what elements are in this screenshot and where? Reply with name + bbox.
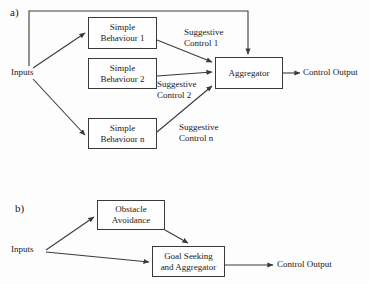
label-control-output-a: Control Output — [303, 67, 358, 78]
node-simple-behaviour-n-line2: Behaviour n — [100, 134, 144, 145]
node-obstacle-avoidance[interactable]: Obstacle Avoidance — [97, 200, 165, 230]
label-control-output-b: Control Output — [277, 259, 332, 270]
node-simple-behaviour-2[interactable]: Simple Behaviour 2 — [88, 58, 157, 89]
label-suggestive-control-n-line2: Control n — [179, 133, 213, 144]
label-suggestive-control-1-line2: Control 1 — [184, 38, 218, 49]
node-simple-behaviour-2-line1: Simple — [110, 63, 136, 74]
node-goal-seeking-line1: Goal Seeking — [164, 251, 213, 262]
node-simple-behaviour-1[interactable]: Simple Behaviour 1 — [88, 17, 157, 49]
label-inputs-a: Inputs — [11, 67, 34, 78]
edge-inputs-to-behaviourn — [33, 79, 85, 135]
node-obstacle-avoidance-line1: Obstacle — [115, 204, 147, 215]
node-simple-behaviour-n[interactable]: Simple Behaviour n — [88, 118, 157, 149]
node-goal-seeking-line2: and Aggregator — [161, 262, 217, 273]
label-inputs-b: Inputs — [11, 244, 34, 255]
label-suggestive-control-1-line1: Suggestive — [184, 27, 224, 38]
node-obstacle-avoidance-line2: Avoidance — [112, 215, 150, 226]
panel-label-b: b) — [15, 202, 24, 214]
panel-label-a: a) — [10, 6, 19, 18]
label-suggestive-control-2-line2: Control 2 — [157, 90, 191, 101]
node-goal-seeking-and-aggregator[interactable]: Goal Seeking and Aggregator — [152, 246, 225, 277]
label-suggestive-control-n-line1: Suggestive — [179, 122, 219, 133]
edge-obstacle-avoidance-to-goal-seeking — [165, 230, 188, 243]
label-suggestive-control-2-line1: Suggestive — [157, 79, 197, 90]
edge-inputs-to-goal-seeking — [46, 252, 149, 262]
node-simple-behaviour-1-line1: Simple — [110, 22, 136, 33]
node-simple-behaviour-2-line2: Behaviour 2 — [100, 74, 144, 85]
edge-inputs-to-behaviour1 — [33, 33, 85, 68]
node-simple-behaviour-n-line1: Simple — [110, 123, 136, 134]
figure-canvas: a) Simple Behaviour 1 Simple Behaviour 2… — [0, 0, 369, 284]
node-simple-behaviour-1-line2: Behaviour 1 — [100, 33, 144, 44]
edge-inputs-to-obstacle-avoidance — [46, 217, 94, 250]
node-aggregator-line1: Aggregator — [229, 68, 270, 79]
edge-behaviour2-to-aggregator — [157, 72, 212, 76]
node-aggregator[interactable]: Aggregator — [215, 57, 283, 89]
